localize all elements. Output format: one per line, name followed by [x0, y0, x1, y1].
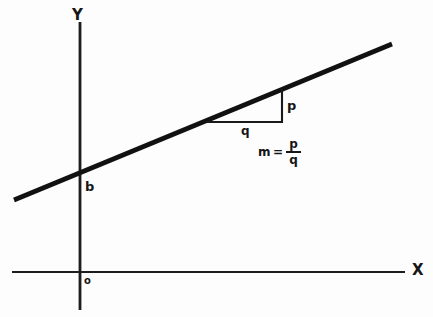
- fraction-denominator: q: [286, 153, 301, 166]
- trend-line: [14, 44, 392, 200]
- formula-equals-sign: =: [273, 145, 283, 159]
- formula-variable-m: m: [258, 145, 271, 159]
- run-label: q: [241, 125, 250, 137]
- rise-label: p: [287, 99, 296, 112]
- x-axis-label: X: [412, 263, 424, 278]
- y-intercept-label: b: [85, 180, 94, 193]
- slope-intercept-diagram: Y X o b p q m = p q: [0, 0, 433, 317]
- y-axis-label: Y: [72, 8, 83, 23]
- formula-fraction: p q: [286, 138, 301, 166]
- fraction-numerator: p: [286, 138, 301, 151]
- origin-label: o: [84, 276, 91, 286]
- diagram-canvas: [0, 0, 433, 317]
- slope-formula: m = p q: [258, 138, 301, 166]
